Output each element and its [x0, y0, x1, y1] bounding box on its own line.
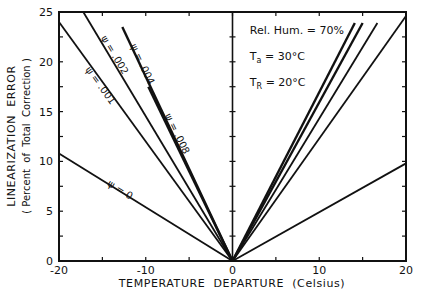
series-label: ψ = .001: [83, 64, 118, 106]
linearization-error-chart: -20-10010200510152025 ψ = 0ψ = .001ψ = .…: [0, 0, 425, 297]
y-tick-label: 0: [46, 255, 53, 268]
y-axis-label: LINEARIZATION ERROR: [5, 65, 18, 207]
y-tick-label: 20: [39, 56, 53, 69]
series-label: ψ = 0: [106, 178, 135, 202]
y-tick-label: 25: [39, 6, 53, 19]
series-labels: ψ = 0ψ = .001ψ = .002ψ = .004ψ = .008: [83, 33, 191, 201]
series-line: [233, 16, 407, 261]
y-axis-sublabel: ( Percent of Total Correction ): [21, 58, 32, 214]
conditions-annotation: Rel. Hum. = 70%Ta = 30°CTR = 20°C: [249, 24, 344, 91]
x-axis-label: TEMPERATURE DEPARTURE (Celsius): [118, 277, 345, 290]
axis-tick-labels: -20-10010200510152025: [39, 6, 413, 277]
y-tick-label: 15: [39, 106, 53, 119]
x-tick-label: -10: [137, 264, 155, 277]
x-tick-label: 10: [312, 264, 326, 277]
annotation-line: TR = 20°C: [249, 76, 306, 91]
x-tick-label: 0: [229, 264, 236, 277]
y-tick-label: 5: [46, 205, 53, 218]
x-tick-label: 20: [399, 264, 413, 277]
series-label: ψ = .002: [99, 33, 131, 76]
annotation-line: Ta = 30°C: [249, 50, 305, 65]
series-label: ψ = .004: [128, 42, 157, 86]
annotation-line: Rel. Hum. = 70%: [250, 24, 344, 37]
y-tick-label: 10: [39, 155, 53, 168]
